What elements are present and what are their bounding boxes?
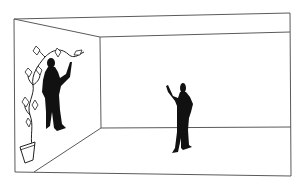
- room-illustration: [0, 0, 303, 190]
